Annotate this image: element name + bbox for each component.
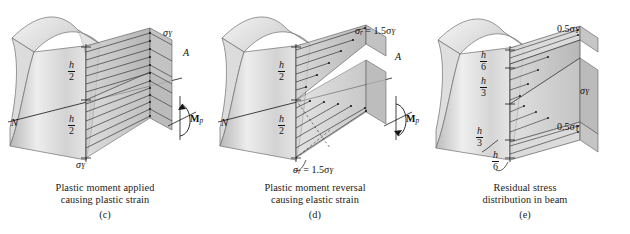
dimension-h-over-2-lower-d: h 2: [278, 114, 285, 136]
label-axis-a-d: A: [395, 52, 401, 62]
panel-c: σY A N σY Mp h 2 h 2 Plastic moment appl…: [0, 0, 210, 234]
panel-e: 0.5σY σY 0.5σY h 6 h 3 h 3 h 6 Res: [420, 0, 630, 234]
caption-e-line1: Residual stress: [494, 182, 557, 193]
dimension-h-over-2-upper-d: h 2: [278, 60, 285, 82]
label-stress-bottom-e: 0.5σY: [557, 122, 579, 133]
caption-c-line1: Plastic moment applied: [56, 182, 155, 193]
dimension-h-over-2-upper-c: h 2: [68, 60, 75, 82]
panel-c-drawing: [0, 0, 210, 186]
caption-c-line2: causing plastic strain: [61, 194, 150, 205]
caption-d-tag: (d): [210, 209, 420, 221]
figure-root: σY A N σY Mp h 2 h 2 Plastic moment appl…: [0, 0, 630, 234]
caption-d: Plastic moment reversal causing elastic …: [210, 182, 420, 221]
label-sigma-r-bottom-d: σr = 1.5σY: [293, 165, 333, 176]
caption-e-line2: distribution in beam: [483, 194, 568, 205]
panel-d: σr = 1.5σY A N σr = 1.5σY Mp h 2 h 2 Pla…: [210, 0, 420, 234]
dimension-h-over-3-upper-e: h 3: [480, 76, 487, 98]
label-axis-n-c: N: [11, 118, 18, 128]
caption-d-line1: Plastic moment reversal: [264, 182, 365, 193]
caption-e: Residual stress distribution in beam (e): [420, 182, 630, 221]
caption-e-tag: (e): [420, 209, 630, 221]
dimension-h-over-2-lower-c: h 2: [68, 114, 75, 136]
caption-c-tag: (c): [0, 209, 210, 221]
label-moment-c: Mp: [190, 114, 203, 125]
dimension-h-over-6-top-e: h 6: [480, 50, 487, 72]
label-moment-d: Mp: [406, 114, 419, 125]
label-sigma-y-top-c: σY: [163, 28, 172, 39]
dimension-h-over-3-lower-e: h 3: [476, 126, 483, 148]
stress-block-d: [296, 25, 386, 158]
caption-d-line2: causing elastic strain: [271, 194, 359, 205]
label-sigma-y-bottom-c: σY: [76, 160, 85, 171]
label-sigma-r-top-d: σr = 1.5σY: [355, 26, 395, 37]
dimension-h-over-6-bottom-e: h 6: [492, 150, 499, 172]
label-axis-n-d: N: [221, 118, 228, 128]
stress-block-c: [86, 28, 172, 158]
caption-c: Plastic moment applied causing plastic s…: [0, 182, 210, 221]
label-axis-a-c: A: [183, 48, 189, 58]
label-stress-mid-e: σY: [580, 86, 589, 97]
label-stress-top-e: 0.5σY: [557, 24, 579, 35]
panel-e-drawing: [420, 0, 630, 186]
